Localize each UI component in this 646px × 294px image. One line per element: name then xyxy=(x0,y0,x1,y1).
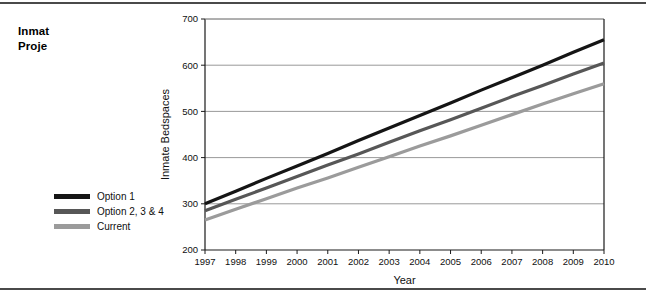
y-gridlines xyxy=(205,19,604,204)
x-axis-title: Year xyxy=(393,274,416,286)
chart-page: Inmat Proje Option 1 Option 2, 3 & 4 Cur… xyxy=(0,0,646,294)
y-tick-label: 200 xyxy=(182,244,198,255)
x-tick-label: 1997 xyxy=(194,256,215,267)
x-tick-label: 1998 xyxy=(225,256,246,267)
line-chart: 200300400500600700 199719981999200020012… xyxy=(0,0,646,294)
series-line xyxy=(205,63,604,211)
y-axis-title: Inmate Bedspaces xyxy=(159,88,171,180)
x-tick-label: 2004 xyxy=(409,256,430,267)
series-line xyxy=(205,84,604,220)
x-tick-label: 2006 xyxy=(471,256,492,267)
x-tick-label: 2005 xyxy=(440,256,461,267)
plot-svg: 200300400500600700 199719981999200020012… xyxy=(0,0,646,294)
x-tick-label: 2002 xyxy=(348,256,369,267)
x-tick-label: 1999 xyxy=(256,256,277,267)
x-tick-label: 2010 xyxy=(593,256,614,267)
x-tick-label: 2008 xyxy=(532,256,553,267)
x-tick-label: 2000 xyxy=(287,256,308,267)
x-tick-label: 2009 xyxy=(563,256,584,267)
data-series xyxy=(205,40,604,220)
x-tick-marks xyxy=(205,250,604,254)
y-tick-label: 300 xyxy=(182,198,198,209)
y-tick-label: 700 xyxy=(182,13,198,24)
x-tick-label: 2001 xyxy=(317,256,338,267)
y-tick-label: 500 xyxy=(182,106,198,117)
y-tick-labels: 200300400500600700 xyxy=(182,13,198,255)
x-tick-label: 2007 xyxy=(501,256,522,267)
y-tick-label: 400 xyxy=(182,152,198,163)
y-tick-label: 600 xyxy=(182,60,198,71)
series-line xyxy=(205,40,604,204)
x-tick-label: 2003 xyxy=(379,256,400,267)
axis-lines xyxy=(205,19,604,250)
x-tick-labels: 1997199819992000200120022003200420052006… xyxy=(194,256,614,267)
